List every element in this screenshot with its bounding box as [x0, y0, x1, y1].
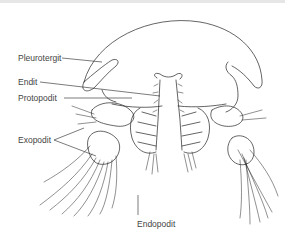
label-pleurotergit: Pleurotergit [18, 53, 61, 63]
label-endopodit: Endopodit [137, 219, 175, 229]
label-protopodit: Protopodit [18, 93, 57, 103]
limb-illustration [0, 0, 285, 240]
label-exopodit: Exopodit [18, 135, 51, 145]
label-endit: Endit [18, 77, 37, 87]
